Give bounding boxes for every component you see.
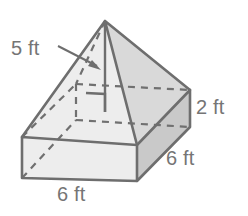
geometry-figure: 5 ft 2 ft 6 ft 6 ft xyxy=(0,0,248,216)
label-prism-depth: 6 ft xyxy=(166,148,195,168)
label-prism-height: 2 ft xyxy=(196,97,225,117)
label-slant-height: 5 ft xyxy=(11,38,40,58)
label-prism-width: 6 ft xyxy=(57,184,86,204)
